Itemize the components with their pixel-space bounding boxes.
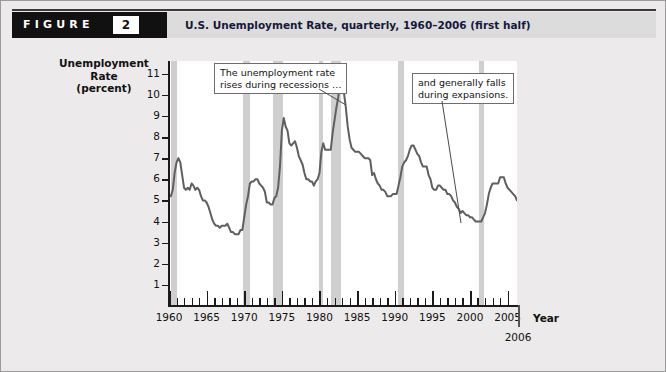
top-rule [12, 9, 656, 11]
x-axis-minor-tick [289, 298, 290, 306]
y-axis-tick-label: 7 [134, 151, 160, 163]
x-axis-minor-tick [297, 298, 298, 306]
y-axis-tick [162, 95, 168, 97]
y-axis-tick-label: 11 [134, 67, 160, 79]
figure-title: U.S. Unemployment Rate, quarterly, 1960–… [185, 19, 531, 31]
expansions-callout-line1: and generally falls [418, 77, 508, 89]
x-axis-line [168, 305, 519, 307]
figure-word-label: FIGURE [23, 18, 94, 31]
y-axis-tick [162, 200, 168, 202]
x-axis-major-tick [470, 291, 472, 306]
y-axis-tick-label: 10 [134, 88, 160, 100]
y-axis-tick-label: 2 [134, 257, 160, 269]
x-axis-minor-tick [274, 298, 275, 306]
y-axis-tick-label: 5 [134, 193, 160, 205]
x-axis-minor-tick [447, 298, 448, 306]
x-axis-tick-label: 1975 [262, 311, 302, 323]
expansions-callout: and generally falls during expansions. [412, 73, 514, 104]
recessions-callout-line1: The unemployment rate [220, 67, 341, 79]
y-axis-tick-label: 4 [134, 215, 160, 227]
x-axis-tick-label: 1965 [187, 311, 227, 323]
expansions-callout-line2: during expansions. [418, 89, 508, 101]
y-axis-tick [162, 158, 168, 160]
x-axis-tick-label: 1995 [412, 311, 452, 323]
x-axis-tick-label: 2005 [488, 311, 528, 323]
x-axis-minor-tick [500, 298, 501, 306]
x-axis-major-tick [508, 291, 510, 306]
x-axis-minor-tick [335, 298, 336, 306]
y-axis-tick [162, 264, 168, 266]
figure-title-bar: U.S. Unemployment Rate, quarterly, 1960–… [167, 12, 656, 38]
figure-tag-block: FIGURE 2 [12, 12, 167, 38]
x-axis-minor-tick [493, 298, 494, 306]
figure-number-box: 2 [113, 16, 139, 34]
x-axis-tick-label: 1985 [337, 311, 377, 323]
y-axis-tick [162, 137, 168, 139]
x-axis-minor-tick [440, 298, 441, 306]
y-axis-tick [162, 116, 168, 118]
x-axis-minor-tick [184, 298, 185, 306]
x-axis-minor-tick [304, 298, 305, 306]
x-axis-tick-label: 1960 [149, 311, 189, 323]
x-axis-minor-tick [222, 298, 223, 306]
recessions-callout: The unemployment rate rises during reces… [214, 63, 347, 94]
x-axis-minor-tick [267, 298, 268, 306]
x-axis-minor-tick [237, 298, 238, 306]
x-axis-major-tick [207, 291, 209, 306]
x-axis-minor-tick [485, 298, 486, 306]
x-axis-major-tick [432, 291, 434, 306]
y-axis-tick-label: 6 [134, 172, 160, 184]
x-axis-minor-tick [312, 298, 313, 306]
x-axis-minor-tick [259, 298, 260, 306]
x-axis-minor-tick [350, 298, 351, 306]
x-axis-minor-tick [462, 298, 463, 306]
x-axis-minor-tick [342, 298, 343, 306]
x-axis-end-year: 2006 [488, 331, 548, 343]
y-axis-tick-label: 3 [134, 236, 160, 248]
x-axis-minor-tick [372, 298, 373, 306]
y-axis-tick [162, 285, 168, 287]
x-axis-major-tick [319, 291, 321, 306]
x-axis-title: Year [533, 312, 559, 324]
x-axis-minor-tick [380, 298, 381, 306]
y-axis-line [168, 61, 170, 306]
y-axis-tick-label: 9 [134, 109, 160, 121]
x-axis-minor-tick [177, 298, 178, 306]
x-axis-minor-tick [455, 298, 456, 306]
x-axis-minor-tick [402, 298, 403, 306]
x-axis-minor-tick [229, 298, 230, 306]
y-axis-tick [162, 243, 168, 245]
x-axis-minor-tick [477, 298, 478, 306]
x-axis-major-tick [169, 291, 171, 306]
y-axis-tick [162, 74, 168, 76]
y-axis-tick-label: 8 [134, 130, 160, 142]
x-axis-tick-label: 1990 [375, 311, 415, 323]
x-axis-major-tick [395, 291, 397, 306]
x-axis-minor-tick [365, 298, 366, 306]
x-axis-major-tick [244, 291, 246, 306]
x-axis-minor-tick [192, 298, 193, 306]
figure-header: FIGURE 2 U.S. Unemployment Rate, quarter… [12, 12, 656, 38]
x-axis-minor-tick [410, 298, 411, 306]
x-axis-major-tick [282, 291, 284, 306]
x-axis-tick-label: 1980 [299, 311, 339, 323]
x-axis-minor-tick [387, 298, 388, 306]
recessions-callout-line2: rises during recessions … [220, 79, 341, 91]
x-axis-tick-label: 1970 [224, 311, 264, 323]
y-axis-tick-label: 1 [134, 278, 160, 290]
axis-end-bracket [518, 305, 520, 327]
figure-number: 2 [113, 18, 139, 32]
x-axis-minor-tick [327, 298, 328, 306]
figure-panel: FIGURE 2 U.S. Unemployment Rate, quarter… [0, 0, 666, 372]
y-axis-tick [162, 222, 168, 224]
y-axis-tick [162, 179, 168, 181]
x-axis-minor-tick [252, 298, 253, 306]
x-axis-major-tick [357, 291, 359, 306]
x-axis-tick-label: 2000 [450, 311, 490, 323]
x-axis-minor-tick [199, 298, 200, 306]
x-axis-minor-tick [214, 298, 215, 306]
x-axis-minor-tick [417, 298, 418, 306]
x-axis-minor-tick [425, 298, 426, 306]
